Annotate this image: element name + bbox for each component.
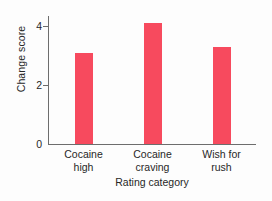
bar-cocaine-high: [75, 53, 93, 144]
x-category-label-line2: rush: [186, 161, 258, 174]
bar-chart-figure: Change score 4 2 0 Cocaine high Cocaine …: [0, 0, 272, 201]
x-category-label-line1: Cocaine: [64, 148, 103, 160]
y-tick-label-0: 0: [26, 139, 42, 150]
x-category-label-line2: craving: [117, 161, 189, 174]
plot-area: [49, 16, 256, 144]
bar-wish-for-rush: [213, 47, 231, 144]
x-category-label-cocaine-craving: Cocaine craving: [117, 148, 189, 173]
x-category-label-line2: high: [48, 161, 120, 174]
x-category-label-wish-for-rush: Wish for rush: [186, 148, 258, 173]
y-tick-label-2: 2: [26, 80, 42, 91]
y-tick-label-4: 4: [26, 21, 42, 32]
x-category-label-cocaine-high: Cocaine high: [48, 148, 120, 173]
x-category-label-line1: Wish for: [202, 148, 241, 160]
x-axis-title: Rating category: [48, 176, 256, 188]
x-axis-line: [48, 144, 256, 145]
x-category-label-line1: Cocaine: [133, 148, 172, 160]
bar-cocaine-craving: [144, 23, 162, 144]
